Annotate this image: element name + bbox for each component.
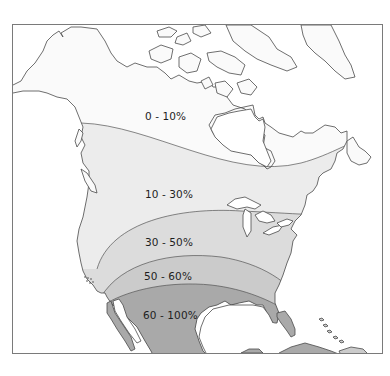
zone-label-60-100: 60 - 100% [143,309,198,321]
zone-label-30-50: 30 - 50% [145,236,193,248]
newfoundland [347,137,371,165]
map-frame: 0 - 10% 10 - 30% 30 - 50% 50 - 60% 60 - … [12,24,383,354]
north-america-map [13,25,383,354]
zone-label-0-10: 0 - 10% [145,110,186,122]
zone-label-50-60: 50 - 60% [144,270,192,282]
greenland [301,25,355,79]
zone-label-10-30: 10 - 30% [145,188,193,200]
